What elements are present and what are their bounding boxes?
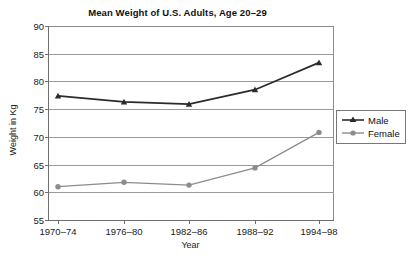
x-tick-mark	[58, 220, 59, 224]
y-tick-label: 70	[33, 131, 44, 142]
series-line-male	[58, 63, 319, 105]
data-point-female-1	[121, 180, 126, 185]
x-tick-mark	[319, 220, 320, 224]
data-series-layer	[49, 26, 334, 220]
data-point-female-3	[252, 165, 257, 170]
y-tick-label: 90	[33, 21, 44, 32]
data-point-female-2	[186, 182, 191, 187]
legend-label-male: Male	[368, 115, 389, 126]
y-tick-label: 85	[33, 48, 44, 59]
x-tick-label: 1988–92	[237, 226, 274, 237]
x-tick-label: 1982–86	[171, 226, 208, 237]
plot-area: 5560657075808590 1970–741976–801982–8619…	[48, 26, 334, 221]
x-tick-label: 1970–74	[40, 226, 77, 237]
data-point-female-0	[55, 184, 60, 189]
x-axis-title: Year	[48, 240, 333, 250]
legend-label-female: Female	[368, 128, 400, 139]
y-tick-label: 55	[33, 215, 44, 226]
x-tick-mark	[189, 220, 190, 224]
data-point-female-4	[316, 130, 321, 135]
legend-key-female-line-circle-icon	[341, 128, 365, 138]
y-tick-label: 75	[33, 104, 44, 115]
legend-item-female: Female	[341, 127, 400, 139]
x-tick-mark	[255, 220, 256, 224]
chart-container: Mean Weight of U.S. Adults, Age 20–29 We…	[0, 0, 420, 265]
legend-item-male: Male	[341, 114, 400, 126]
x-tick-label: 1976–80	[106, 226, 143, 237]
chart-legend: Male Female	[336, 110, 406, 144]
y-tick-mark	[45, 220, 49, 221]
series-line-female	[58, 132, 319, 186]
x-tick-label: 1994–98	[301, 226, 338, 237]
data-point-male-4	[316, 59, 322, 65]
y-axis-title: Weight in Kg	[8, 75, 18, 185]
chart-title: Mean Weight of U.S. Adults, Age 20–29	[0, 7, 355, 18]
y-tick-label: 60	[33, 187, 44, 198]
x-tick-mark	[124, 220, 125, 224]
y-tick-label: 80	[33, 76, 44, 87]
y-tick-label: 65	[33, 159, 44, 170]
legend-key-male-line-triangle-icon	[341, 115, 365, 125]
